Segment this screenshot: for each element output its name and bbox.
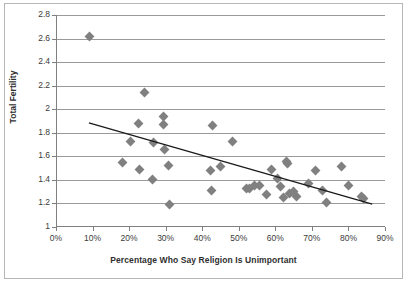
- y-tick-label-text: 2.4: [22, 57, 50, 66]
- x-tick-label-text: 30%: [146, 234, 186, 243]
- x-tick-label-text: 60%: [255, 234, 295, 243]
- y-tick-label: 2.4: [18, 57, 50, 67]
- y-tick-label: 1: [18, 222, 50, 232]
- x-tick-label-text: 40%: [182, 234, 222, 243]
- x-tick-label: 10%: [73, 234, 113, 243]
- x-tick-mark: [93, 227, 94, 231]
- y-tick-label: 2.2: [18, 81, 50, 91]
- trend-line: [56, 15, 385, 227]
- x-tick-label-text: 20%: [109, 234, 149, 243]
- y-tick-label: 2: [18, 104, 50, 114]
- y-tick-label: 1.8: [18, 128, 50, 138]
- y-tick-label-text: 2: [22, 104, 50, 113]
- y-tick-label-text: 2.6: [22, 34, 50, 43]
- y-tick-label-text: 1.6: [22, 151, 50, 160]
- x-tick-label: 60%: [255, 234, 295, 243]
- x-tick-mark: [239, 227, 240, 231]
- y-tick-label: 1.6: [18, 151, 50, 161]
- y-tick-label: 2.6: [18, 34, 50, 44]
- x-tick-mark: [348, 227, 349, 231]
- x-tick-label: 30%: [146, 234, 186, 243]
- x-tick-label: 0%: [36, 234, 76, 243]
- y-tick-label: 1.4: [18, 175, 50, 185]
- y-axis-title: Total Fertility: [8, 52, 18, 142]
- x-tick-label-text: 0%: [36, 234, 76, 243]
- x-tick-label-text: 70%: [292, 234, 332, 243]
- x-tick-label: 70%: [292, 234, 332, 243]
- x-tick-label: 90%: [365, 234, 405, 243]
- y-tick-label-text: 2.2: [22, 81, 50, 90]
- y-tick-label: 2.8: [18, 10, 50, 20]
- x-tick-mark: [312, 227, 313, 231]
- x-tick-mark: [56, 227, 57, 231]
- x-tick-label: 80%: [328, 234, 368, 243]
- y-tick-label: 1.2: [18, 198, 50, 208]
- x-tick-label-text: 90%: [365, 234, 405, 243]
- y-tick-label-text: 1.2: [22, 198, 50, 207]
- y-tick-label-text: 1: [22, 222, 50, 231]
- x-tick-mark: [385, 227, 386, 231]
- x-tick-mark: [129, 227, 130, 231]
- x-tick-label: 50%: [219, 234, 259, 243]
- x-tick-label-text: 80%: [328, 234, 368, 243]
- y-tick-label-text: 1.4: [22, 175, 50, 184]
- x-tick-mark: [202, 227, 203, 231]
- x-tick-label-text: 50%: [219, 234, 259, 243]
- x-tick-mark: [275, 227, 276, 231]
- y-tick-label-text: 1.8: [22, 128, 50, 137]
- y-tick-label-text: 2.8: [22, 10, 50, 19]
- x-axis-title: Percentage Who Say Religion Is Unimporta…: [0, 255, 407, 265]
- x-tick-label: 20%: [109, 234, 149, 243]
- x-tick-mark: [166, 227, 167, 231]
- x-tick-label: 40%: [182, 234, 222, 243]
- x-tick-label-text: 10%: [73, 234, 113, 243]
- chart-figure: 11.21.41.61.822.22.42.62.8 0%10%20%30%40…: [0, 0, 407, 287]
